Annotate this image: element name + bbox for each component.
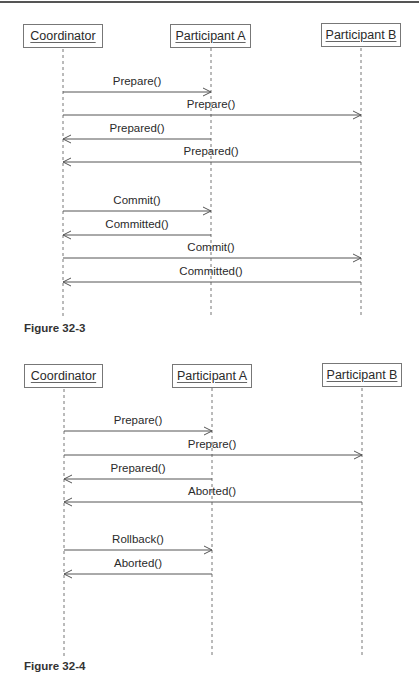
participant-b: Participant B [321,23,401,47]
message-label: Committed() [179,265,242,277]
participant-coordinator: Coordinator [23,24,103,48]
message-label: Prepare() [188,438,237,450]
figure-caption: Figure 32-3 [24,322,85,334]
message-label: Prepared() [111,462,166,474]
message-label: Commit() [113,194,160,206]
message-label: Aborted() [114,557,162,569]
figure-caption: Figure 32-4 [24,660,85,672]
participant-b: Participant B [322,363,402,387]
diagram-lines [0,340,419,677]
sequence-diagram-figure-32-4: Coordinator Participant A Participant B … [0,340,419,677]
message-label: Commit() [187,241,234,253]
participant-label: Coordinator [30,29,95,43]
diagram-lines [0,0,419,340]
message-label: Prepare() [113,75,162,87]
participant-label: Coordinator [31,369,96,383]
participant-label: Participant B [326,28,397,42]
sequence-diagram-figure-32-3: Coordinator Participant A Participant B … [0,0,419,340]
participant-label: Participant A [177,369,247,383]
message-label: Aborted() [188,485,236,497]
participant-a: Participant A [172,364,252,388]
participant-label: Participant A [175,29,245,43]
message-label: Prepared() [184,145,239,157]
message-label: Prepare() [114,414,163,426]
participant-label: Participant B [327,368,398,382]
participant-a: Participant A [170,24,251,48]
participant-coordinator: Coordinator [24,364,103,388]
message-label: Committed() [105,218,168,230]
message-label: Rollback() [112,533,164,545]
message-label: Prepared() [110,122,165,134]
message-label: Prepare() [187,98,236,110]
